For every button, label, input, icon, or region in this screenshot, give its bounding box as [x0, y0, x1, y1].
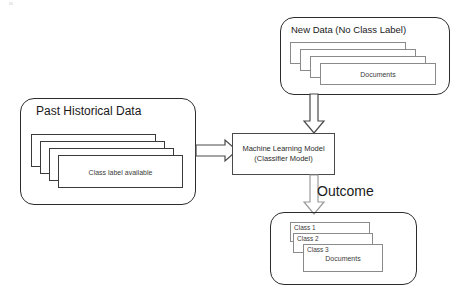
past-data-title: Past Historical Data	[36, 104, 141, 118]
machine-learning-model-box: Machine Learning Model (Classifier Model…	[232, 133, 335, 175]
new-data-card-4: Documents	[320, 63, 436, 85]
scan-artifact	[9, 2, 13, 5]
new-data-card-label: Documents	[321, 71, 435, 78]
past-data-card-label: Class label available	[59, 168, 182, 175]
past-data-card-4: Class label available	[58, 155, 183, 188]
outcome-label: Outcome	[317, 183, 374, 199]
model-box-line-1: Machine Learning Model	[242, 144, 324, 154]
outcome-card-3: Class 3 Documents	[303, 244, 383, 272]
arrow-newdata-to-model	[303, 94, 325, 134]
outcome-card-3-label: Class 3	[307, 246, 329, 253]
model-box-line-2: (Classifier Model)	[254, 154, 312, 164]
outcome-card-1-label: Class 1	[294, 224, 316, 231]
new-data-title: New Data (No Class Label)	[291, 24, 406, 35]
diagram-canvas: New Data (No Class Label) Documents Past…	[0, 0, 466, 295]
outcome-card-3-documents-label: Documents	[304, 255, 382, 262]
outcome-card-2-label: Class 2	[297, 235, 319, 242]
